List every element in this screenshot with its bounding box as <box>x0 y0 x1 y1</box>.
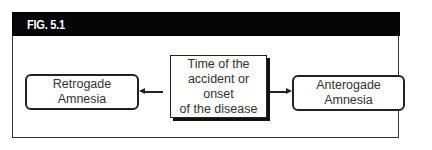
edge-to-left-line <box>143 91 163 93</box>
node-anterogade-amnesia: Anterogade Amnesia <box>292 75 405 111</box>
node-label-line: Retrogade <box>53 77 111 92</box>
node-label-line: Time of the <box>171 57 266 72</box>
node-label-line: of the disease <box>171 102 266 117</box>
edge-to-right-line <box>270 91 287 93</box>
figure-label: FIG. 5.1 <box>27 17 65 32</box>
node-label-line: Amnesia <box>53 92 111 107</box>
figure-header-bar <box>12 12 400 36</box>
arrow-right-icon <box>286 88 292 94</box>
node-retrogade-amnesia: Retrogade Amnesia <box>25 74 139 110</box>
node-label-line: accident or onset <box>171 72 266 102</box>
node-time-of-accident: Time of the accident or onset of the dis… <box>170 55 267 118</box>
arrow-left-icon <box>139 88 145 94</box>
node-label-line: Anterogade Amnesia <box>294 78 403 108</box>
